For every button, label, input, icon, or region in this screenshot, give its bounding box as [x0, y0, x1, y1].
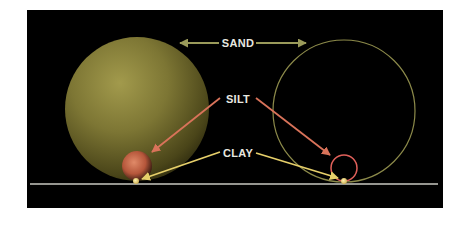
silt-label: SILT — [224, 93, 252, 105]
clay-label: CLAY — [221, 147, 255, 159]
sand-label: SAND — [220, 37, 256, 49]
diagram-drawing — [0, 0, 466, 227]
soil-particle-size-diagram: SAND SILT CLAY — [0, 0, 466, 227]
silt-arrow-right — [256, 98, 330, 155]
clay-dot-right — [341, 178, 347, 184]
sand-circle-right — [273, 40, 415, 182]
clay-dot-left — [133, 178, 139, 184]
clay-arrow-right — [256, 153, 338, 178]
